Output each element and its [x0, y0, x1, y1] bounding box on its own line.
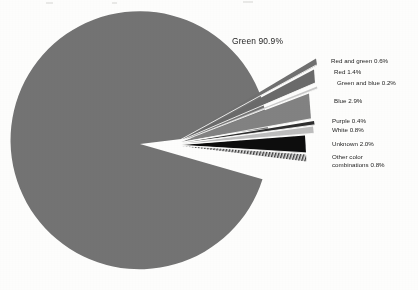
- label-green-and-blue: Green and blue 0.2%: [337, 79, 396, 87]
- label-green: Green 90.9%: [232, 38, 283, 46]
- label-red-and-green: Red and green 0.6%: [331, 57, 388, 65]
- label-other-color-combinations-line1: Other color: [332, 153, 363, 161]
- scan-artifact: [112, 2, 117, 4]
- label-other-color-combinations-line2: combinations 0.8%: [332, 161, 385, 169]
- label-purple: Purple 0.4%: [332, 117, 366, 125]
- pie-chart-figure: Green 90.9% Red and green 0.6% Red 1.4% …: [0, 0, 418, 290]
- label-blue: Blue 2.9%: [334, 97, 362, 105]
- label-unknown: Unknown 2.0%: [332, 140, 374, 148]
- scan-artifact: [243, 1, 253, 3]
- label-white: White 0.8%: [332, 126, 364, 134]
- scan-artifact: [46, 2, 53, 4]
- label-red: Red 1.4%: [334, 68, 361, 76]
